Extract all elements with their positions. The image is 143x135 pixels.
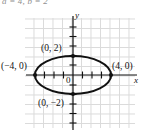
label-bottom-vertex: (0, −2) [38, 99, 64, 109]
x-axis-label: x [134, 76, 138, 85]
vertex-marker-top [71, 54, 75, 58]
origin-label: 0 [66, 76, 71, 85]
vertex-marker-right [109, 73, 113, 77]
label-right-vertex: (4, 0) [112, 62, 133, 72]
label-left-vertex: (−4, 0) [1, 62, 27, 72]
label-top-vertex: (0, 2) [41, 44, 62, 54]
y-axis-label: y [75, 11, 79, 20]
vertex-marker-bottom [71, 92, 75, 96]
ellipse-graph-figure: a = 4, b = 2 [0, 0, 143, 135]
vertex-marker-left [33, 73, 37, 77]
